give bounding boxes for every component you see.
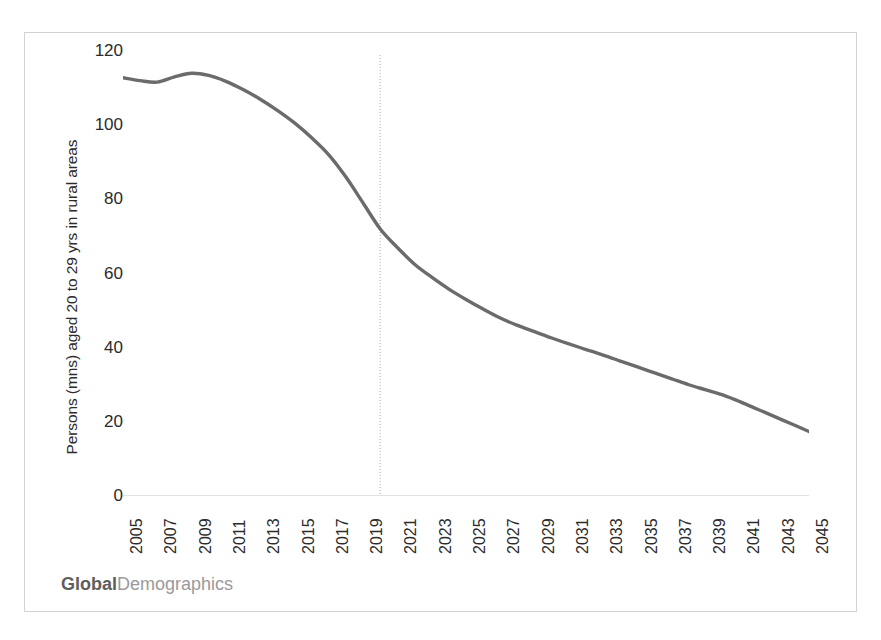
brand-watermark: GlobalDemographics bbox=[61, 575, 233, 593]
x-tick-label: 2043 bbox=[781, 518, 797, 554]
y-tick-label: 120 bbox=[77, 42, 123, 59]
y-tick-label: 20 bbox=[77, 413, 123, 430]
x-tick-label: 2013 bbox=[266, 518, 282, 554]
y-tick-label: 100 bbox=[77, 116, 123, 133]
data-series-line bbox=[123, 73, 809, 431]
x-tick-label: 2045 bbox=[815, 518, 831, 554]
x-tick-label: 2011 bbox=[232, 520, 248, 554]
x-tick-label: 2029 bbox=[541, 518, 557, 554]
x-tick-label: 2015 bbox=[301, 518, 317, 554]
x-tick-label: 2031 bbox=[575, 518, 591, 554]
x-tick-label: 2039 bbox=[712, 518, 728, 554]
x-tick-label: 2005 bbox=[129, 518, 145, 554]
chart-figure-frame: Persons (mns) aged 20 to 29 yrs in rural… bbox=[24, 32, 857, 612]
brand-name-primary: Global bbox=[61, 574, 117, 594]
x-tick-label: 2035 bbox=[644, 518, 660, 554]
y-tick-label: 40 bbox=[77, 339, 123, 356]
x-tick-label: 2037 bbox=[678, 518, 694, 554]
y-tick-label: 80 bbox=[77, 190, 123, 207]
x-tick-label: 2033 bbox=[609, 518, 625, 554]
x-axis-tick-labels: 2005200720092011201320152017201920212023… bbox=[123, 498, 809, 578]
brand-name-secondary: Demographics bbox=[117, 574, 233, 594]
y-tick-label: 0 bbox=[77, 487, 123, 504]
plot-area bbox=[123, 51, 809, 496]
x-tick-label: 2023 bbox=[438, 518, 454, 554]
x-tick-label: 2027 bbox=[506, 518, 522, 554]
x-tick-label: 2017 bbox=[335, 518, 351, 554]
x-tick-label: 2021 bbox=[403, 518, 419, 554]
x-tick-label: 2025 bbox=[472, 518, 488, 554]
x-tick-label: 2019 bbox=[369, 518, 385, 554]
x-tick-label: 2009 bbox=[198, 518, 214, 554]
y-tick-label: 60 bbox=[77, 265, 123, 282]
x-tick-label: 2041 bbox=[746, 518, 762, 554]
chart-plot-svg bbox=[123, 51, 809, 496]
y-axis-tick-labels: 020406080100120 bbox=[63, 33, 123, 613]
x-tick-label: 2007 bbox=[163, 518, 179, 554]
